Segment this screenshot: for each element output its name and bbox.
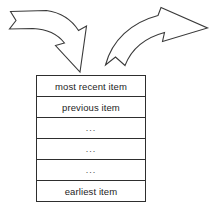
diagram-canvas: most recent item previous item ... ... .… [0, 0, 210, 214]
arrows-layer [0, 0, 210, 78]
list-item: earliest item [37, 181, 145, 202]
list-item: ... [37, 118, 145, 139]
list-item: previous item [37, 97, 145, 118]
list-item: ... [37, 160, 145, 181]
outgoing-arrow-icon [106, 8, 208, 66]
list-item: most recent item [37, 76, 145, 97]
incoming-arrow-icon [10, 11, 87, 73]
list-item: ... [37, 139, 145, 160]
item-stack: most recent item previous item ... ... .… [36, 75, 146, 202]
